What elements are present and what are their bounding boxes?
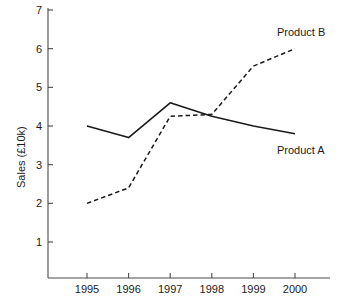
series-line-product-a <box>87 103 295 138</box>
series-label-product-b: Product B <box>277 27 325 38</box>
x-tick-label: 2000 <box>283 284 307 295</box>
y-axis-title: Sales (£10k) <box>16 126 27 188</box>
y-tick-label: 2 <box>20 198 42 209</box>
y-tick-label: 3 <box>20 159 42 170</box>
y-tick-label: 6 <box>20 43 42 54</box>
x-tick-label: 1999 <box>241 284 265 295</box>
x-tick-marks <box>87 273 295 278</box>
y-tick-label: 5 <box>20 82 42 93</box>
x-tick-label: 1998 <box>200 284 224 295</box>
y-tick-label: 1 <box>20 237 42 248</box>
x-tick-label: 1995 <box>75 284 99 295</box>
line-chart: Sales (£10k) 123456719951996199719981999… <box>0 0 340 307</box>
series-label-product-a: Product A <box>277 145 325 156</box>
x-tick-label: 1997 <box>158 284 182 295</box>
y-tick-label: 4 <box>20 121 42 132</box>
data-series-group <box>87 49 295 204</box>
x-tick-label: 1996 <box>116 284 140 295</box>
y-tick-label: 7 <box>20 5 42 16</box>
y-tick-marks <box>48 10 53 242</box>
series-line-product-b <box>87 49 295 204</box>
